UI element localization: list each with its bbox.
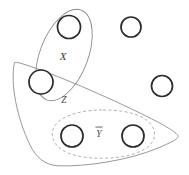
diagram-canvas: X Z Y [0, 0, 189, 175]
node-circle [61, 125, 83, 147]
node-circle [121, 17, 141, 37]
set-diagram-figure: X Z Y [0, 0, 189, 175]
node-circle [29, 70, 53, 94]
label-z: Z [61, 95, 67, 105]
node-circle [58, 16, 81, 39]
label-x: X [59, 50, 68, 62]
label-y: Y [96, 129, 103, 139]
node-circle [152, 76, 173, 97]
node-circle [122, 125, 144, 147]
label-y-overbar [95, 127, 102, 128]
